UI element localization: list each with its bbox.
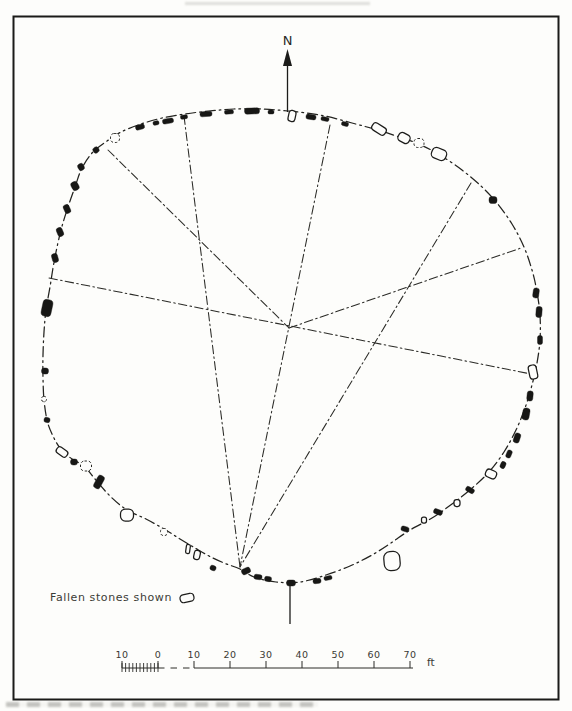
fallen-stone (397, 131, 412, 145)
stone-dashed-outline (414, 139, 424, 148)
scale-label: 0 (155, 649, 162, 660)
scale-label: 10 (187, 649, 200, 660)
alignment-line (289, 248, 521, 328)
fallen-stone (484, 468, 497, 480)
standing-stone (93, 474, 106, 490)
fallen-stone (185, 544, 190, 553)
standing-stone (538, 336, 543, 345)
standing-stone (51, 253, 59, 263)
scale-label: 70 (403, 649, 416, 660)
standing-stone (200, 111, 212, 117)
stone-dashed-outline (42, 397, 47, 402)
standing-stone (287, 580, 296, 586)
standing-stone (209, 565, 216, 572)
standing-stone (306, 114, 317, 120)
stones-layer (40, 108, 542, 586)
caption-artifact (6, 702, 318, 707)
standing-stone (56, 227, 65, 238)
fallen-stone (55, 446, 69, 459)
standing-stone (70, 180, 80, 191)
standing-stone (400, 525, 409, 532)
fallen-stone (193, 550, 201, 560)
standing-stone (224, 110, 233, 114)
north-arrow: N (283, 33, 293, 112)
standing-stone (244, 108, 259, 115)
site-plan: N Fallen stones shown ft 100102030405060… (0, 0, 572, 711)
fallen-stone (422, 517, 427, 523)
scale-label: 10 (115, 649, 128, 660)
scale-label: 20 (223, 649, 236, 660)
scale-bar: ft 10010203040506070 (115, 649, 434, 672)
standing-stone (41, 368, 48, 375)
legend-label: Fallen stones shown (50, 591, 172, 604)
alignment-line (184, 116, 240, 567)
scale-unit-label: ft (427, 656, 435, 668)
fallen-stone (454, 500, 460, 507)
standing-stone (526, 391, 533, 402)
scale-label: 60 (367, 649, 380, 660)
standing-stone (62, 204, 71, 215)
standing-stone (264, 576, 271, 582)
scale-label: 30 (259, 649, 272, 660)
standing-stone (532, 288, 539, 299)
standing-stone (324, 575, 333, 580)
north-arrowhead (283, 49, 292, 66)
standing-stone (153, 120, 160, 125)
stone-ring-outline (43, 109, 541, 583)
standing-stone (162, 118, 174, 125)
stone-dashed-outline (111, 134, 120, 143)
standing-stone (489, 197, 497, 204)
ring-layer (43, 109, 541, 583)
standing-stone (135, 123, 145, 130)
north-label: N (283, 33, 293, 48)
fallen-stone (430, 146, 448, 162)
legend: Fallen stones shown (50, 591, 195, 604)
standing-stone (499, 461, 506, 469)
fallen-stone-symbol (179, 593, 194, 604)
standing-stone (313, 578, 321, 584)
standing-stone (522, 407, 531, 420)
fallen-stone (383, 551, 401, 571)
alignment-line (108, 150, 289, 328)
fallen-stone (371, 122, 388, 137)
stone-dashed-outline (161, 529, 168, 536)
standing-stone (180, 115, 187, 120)
fallen-stone (287, 110, 296, 122)
scanned-stone-circle-plan: N Fallen stones shown ft 100102030405060… (0, 0, 572, 711)
alignment-line (240, 125, 330, 567)
standing-stone (254, 574, 263, 580)
scale-label: 40 (295, 649, 308, 660)
standing-stone (505, 449, 513, 458)
stone-dashed-outline (81, 461, 92, 471)
alignment-line (49, 278, 531, 374)
scale-label: 50 (331, 649, 344, 660)
standing-stone (536, 306, 543, 317)
standing-stone (433, 508, 443, 516)
standing-stone (71, 459, 78, 465)
standing-stone (268, 110, 274, 114)
standing-stone (44, 417, 51, 423)
standing-stone (241, 566, 252, 575)
fallen-stone (121, 509, 134, 521)
standing-stone (40, 299, 53, 318)
